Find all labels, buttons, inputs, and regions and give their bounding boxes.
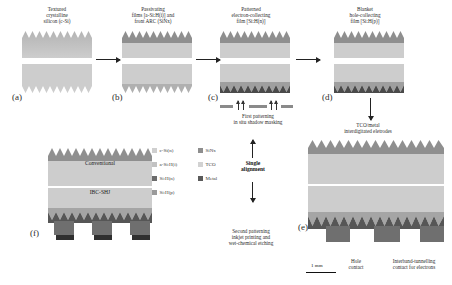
panel-b-caption-line3: front ARC (SiNx) xyxy=(110,18,196,24)
ibc-shj-label: IBC-SHJ xyxy=(62,189,138,195)
legend-label-si-h-p: Si:H(p) xyxy=(160,190,175,195)
panel-d-stack xyxy=(334,31,404,93)
scale-bar xyxy=(306,272,336,273)
legend-swatch-a-si-h-i xyxy=(152,162,157,167)
legend-item-si-h-p: Si:H(p) xyxy=(152,190,175,195)
panel-b-wafer-svg xyxy=(122,31,192,93)
shadow-mask-bar-3 xyxy=(281,105,293,108)
legend-swatch-sinx xyxy=(198,148,203,153)
panel-f-label: (f) xyxy=(30,228,39,238)
panel-a-caption: Textured crystalline silicon (c-Si) xyxy=(18,6,96,25)
figure-canvas: Textured crystalline silicon (c-Si) (a) … xyxy=(0,0,452,285)
single-alignment-label: Single alignment xyxy=(228,160,278,173)
legend: c-Si(n) a-Si:H(i) Si:H(n) Si:H(p) SiNx T… xyxy=(152,148,248,208)
legend-item-a-si-h-i: a-Si:H(i) xyxy=(152,162,177,167)
tunnel-contact-note: Interband-tunnelling contact for electro… xyxy=(378,258,450,270)
legend-item-sinx: SiNx xyxy=(198,148,216,153)
legend-label-si-h-n: Si:H(n) xyxy=(160,176,175,181)
arrow-b-to-c xyxy=(196,59,220,60)
panel-e-label: (e) xyxy=(298,222,308,232)
scale-bar-label: 1 mm xyxy=(311,263,323,268)
hole-contact-note: Hole contact xyxy=(334,258,378,270)
hole-contact-line2: contact xyxy=(334,264,378,270)
deposition-arrow-4 xyxy=(276,101,277,110)
panel-e-caption: TCO/metal interdigitated eletrodes xyxy=(322,122,414,134)
legend-label-metal: Metal xyxy=(206,176,218,181)
shadow-mask-bar-2 xyxy=(249,105,267,108)
panel-e-upper-svg xyxy=(308,140,444,184)
legend-swatch-si-h-p xyxy=(152,190,157,195)
legend-item-si-h-n: Si:H(n) xyxy=(152,176,175,181)
panel-d-label: (d) xyxy=(322,92,333,102)
panel-d-caption-line3: film [Si:H(p)] xyxy=(322,18,408,24)
legend-label-c-si-n: c-Si(n) xyxy=(160,148,174,153)
arrow-single-alignment-up xyxy=(252,140,253,158)
legend-label-tco: TCO xyxy=(206,162,216,167)
single-alignment-line2: alignment xyxy=(228,166,278,172)
first-patterning-line2: in situ shadow masking xyxy=(216,119,300,125)
arrow-d-to-e xyxy=(370,98,371,120)
arrow-a-to-b xyxy=(96,59,120,60)
legend-item-metal: Metal xyxy=(198,176,217,181)
conventional-label: Conventional xyxy=(62,160,138,166)
panel-d-caption: Blanket hole-collecting film [Si:H(p)] xyxy=(322,6,408,25)
legend-item-tco: TCO xyxy=(198,162,216,167)
panel-d-wafer-svg xyxy=(334,31,404,93)
legend-item-c-si-n: c-Si(n) xyxy=(152,148,173,153)
panel-c-wafer-svg xyxy=(220,31,290,93)
panel-c-label: (c) xyxy=(208,92,218,102)
deposition-arrow-2 xyxy=(243,101,244,110)
legend-label-sinx: SiNx xyxy=(206,148,216,153)
legend-swatch-c-si-n xyxy=(152,148,157,153)
panel-c-caption: Patterned electron-collecting film [Si:H… xyxy=(208,6,294,25)
panel-a-stack xyxy=(22,31,92,93)
panel-c-stack xyxy=(220,31,290,93)
tunnel-contact-line2: contact for electrons xyxy=(378,264,450,270)
legend-swatch-si-h-n xyxy=(152,176,157,181)
deposition-arrow-3 xyxy=(271,101,272,110)
panel-f-upper-svg xyxy=(48,148,152,186)
second-patterning-note: Second patterning inkjet printing and we… xyxy=(208,228,294,247)
panel-f-upper-stack xyxy=(48,148,152,186)
panel-b-caption: Passivating films [a-Si:H(i)] and front … xyxy=(110,6,196,25)
panel-a-caption-line3: silicon (c-Si) xyxy=(18,18,96,24)
panel-b-label: (b) xyxy=(112,92,123,102)
panel-b-stack xyxy=(122,31,192,93)
panel-a-label: (a) xyxy=(12,92,22,102)
legend-swatch-metal xyxy=(198,176,203,181)
panel-e-lower-stack xyxy=(308,186,444,254)
legend-swatch-tco xyxy=(198,162,203,167)
panel-e-caption-line2: interdigitated eletrodes xyxy=(322,128,414,134)
arrow-single-alignment-down xyxy=(252,182,253,202)
panel-e-lower-svg xyxy=(308,186,444,254)
panel-a-wafer-svg xyxy=(22,31,92,93)
panel-e-upper-stack xyxy=(308,140,444,184)
panel-c-caption-line3: film [Si:H(n)] xyxy=(208,18,294,24)
arrow-c-to-d xyxy=(296,59,320,60)
shadow-mask-bar-1 xyxy=(220,105,233,108)
deposition-arrow-1 xyxy=(238,101,239,110)
first-patterning-note: First patterning in situ shadow masking xyxy=(216,113,300,125)
second-patterning-line3: wet-chemical etching xyxy=(208,240,294,246)
panel-f-lower-svg xyxy=(48,188,152,244)
legend-label-a-si-h-i: a-Si:H(i) xyxy=(160,162,178,167)
panel-f-lower-stack xyxy=(48,188,152,244)
